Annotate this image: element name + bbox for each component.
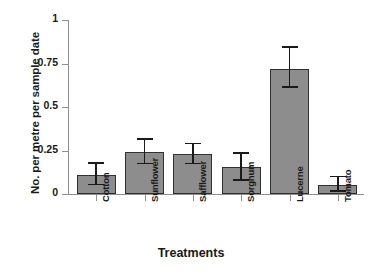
y-tick-label: 0.5 xyxy=(43,99,58,111)
x-category-label-cotton: Cotton xyxy=(100,173,111,202)
error-bar-cap-upper xyxy=(282,46,298,48)
x-axis-title: Treatments xyxy=(0,246,382,260)
y-tick-label: 0.25 xyxy=(38,143,58,155)
y-tick-label: 0 xyxy=(52,186,58,198)
error-bar-line xyxy=(240,154,242,181)
y-axis-title: No. per metre per sample date xyxy=(29,18,41,208)
chart-figure: No. per metre per sample date 00.250.50.… xyxy=(0,0,382,272)
x-tick-3 xyxy=(241,194,242,201)
error-bar-cap-upper xyxy=(233,152,249,154)
y-tick-1: 0.25 xyxy=(62,151,68,152)
y-tick-3: 0.75 xyxy=(62,64,68,65)
y-tick-0: 0 xyxy=(62,194,68,195)
y-tick-2: 0.5 xyxy=(62,107,68,108)
error-bar-cap-upper xyxy=(88,162,104,164)
x-category-label-sorghum: Sorghum xyxy=(245,162,256,202)
error-bar-line xyxy=(192,144,194,164)
y-tick-label: 0.75 xyxy=(38,56,58,68)
x-tick-1 xyxy=(145,194,146,201)
x-tick-4 xyxy=(290,194,291,201)
bar-group xyxy=(77,20,116,194)
y-axis-line xyxy=(68,20,69,195)
error-bar-line xyxy=(95,164,97,186)
error-bar-cap-upper xyxy=(185,143,201,145)
x-tick-0 xyxy=(96,194,97,201)
x-category-label-tomato: Tomato xyxy=(342,170,353,202)
error-bar-cap-upper xyxy=(137,138,153,140)
y-tick-label: 1 xyxy=(52,12,58,24)
bar-group xyxy=(318,20,357,194)
plot-area: 00.250.50.751 CottonSunflowerSafflowerSo… xyxy=(68,20,358,194)
error-bar-line xyxy=(144,140,146,164)
x-category-label-lucerne: Lucerne xyxy=(294,166,305,202)
y-tick-4: 1 xyxy=(62,20,68,21)
error-bar-line xyxy=(289,48,291,88)
error-bar-cap-lower xyxy=(282,86,298,88)
x-category-label-safflower: Safflower xyxy=(197,161,208,202)
x-category-label-sunflower: Sunflower xyxy=(149,158,160,202)
x-tick-5 xyxy=(338,194,339,201)
x-tick-2 xyxy=(193,194,194,201)
